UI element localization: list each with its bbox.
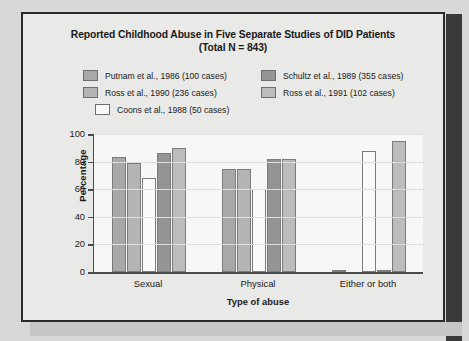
grid-line: [94, 189, 424, 190]
x-tick-label: Either or both: [340, 278, 396, 289]
bar: [282, 159, 296, 272]
grid-line: [94, 244, 424, 245]
bar: [392, 141, 406, 272]
chart-title-line2: (Total N = 843): [23, 41, 443, 54]
y-tick-mark: [88, 217, 93, 219]
chart-title-line1: Reported Childhood Abuse in Five Separat…: [71, 29, 395, 40]
y-tick-label: 80: [75, 157, 85, 167]
legend-swatch-icon: [83, 70, 98, 81]
legend-item[interactable]: Coons et al., 1988 (50 cases): [95, 104, 229, 115]
y-tick-label: 100: [69, 129, 85, 139]
y-axis-label: Percentage: [77, 131, 88, 221]
bar: [142, 178, 156, 272]
legend-swatch-icon: [83, 87, 98, 98]
legend-item[interactable]: Ross et al., 1990 (236 cases): [83, 87, 217, 98]
grid-line: [94, 217, 424, 218]
legend-item-label: Schultz et al., 1989 (355 cases): [283, 71, 403, 81]
chart-title: Reported Childhood Abuse in Five Separat…: [23, 28, 443, 54]
bar: [362, 151, 376, 272]
y-tick-mark: [88, 189, 93, 191]
y-tick-label: 60: [75, 184, 85, 194]
legend-item-label: Ross et al., 1991 (102 cases): [283, 88, 395, 98]
plot-area: [93, 134, 423, 272]
legend-swatch-icon: [261, 87, 276, 98]
legend-item-label: Putnam et al., 1986 (100 cases): [105, 71, 227, 81]
legend-swatch-icon: [95, 104, 110, 115]
bar: [237, 169, 251, 273]
y-tick-label: 40: [75, 212, 85, 222]
bar: [222, 169, 236, 273]
chart-legend: Putnam et al., 1986 (100 cases)Ross et a…: [83, 70, 433, 120]
bar: [267, 159, 281, 272]
chart-frame: Reported Childhood Abuse in Five Separat…: [21, 12, 445, 322]
x-tick-label: Sexual: [134, 278, 163, 289]
y-tick-mark: [88, 272, 93, 274]
legend-item-label: Ross et al., 1990 (236 cases): [105, 88, 217, 98]
bar: [157, 153, 171, 272]
legend-item[interactable]: Schultz et al., 1989 (355 cases): [261, 70, 403, 81]
y-tick-label: 20: [75, 239, 85, 249]
x-tick-label: Physical: [241, 278, 276, 289]
figure-shadow-bottom: [30, 322, 462, 336]
legend-swatch-icon: [261, 70, 276, 81]
bars-layer: [94, 134, 424, 272]
y-tick-mark: [88, 162, 93, 164]
legend-item[interactable]: Ross et al., 1991 (102 cases): [261, 87, 395, 98]
grid-line: [94, 134, 424, 135]
x-axis-line: [93, 272, 423, 274]
y-tick-mark: [88, 244, 93, 246]
y-tick-mark: [88, 134, 93, 136]
figure-shadow-right: [446, 14, 462, 341]
bar: [172, 148, 186, 272]
y-tick-label: 0: [80, 267, 85, 277]
bar: [252, 189, 266, 272]
x-axis-label: Type of abuse: [93, 296, 423, 307]
bar: [112, 157, 126, 272]
plot-wrapper: Percentage 020406080100 SexualPhysicalEi…: [93, 134, 423, 289]
figure-root: Reported Childhood Abuse in Five Separat…: [0, 0, 469, 341]
legend-item-label: Coons et al., 1988 (50 cases): [117, 105, 229, 115]
legend-item[interactable]: Putnam et al., 1986 (100 cases): [83, 70, 227, 81]
grid-line: [94, 162, 424, 163]
